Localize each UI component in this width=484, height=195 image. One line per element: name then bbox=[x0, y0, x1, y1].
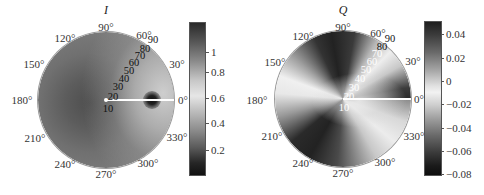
colorbar-tick: −0.02 bbox=[446, 98, 471, 110]
colorbar-tick: −0.08 bbox=[446, 168, 471, 180]
radial-label: 90 bbox=[385, 33, 396, 44]
angle-label: 300° bbox=[375, 156, 396, 168]
angle-label: 30° bbox=[405, 55, 420, 67]
plot-title-q: Q bbox=[339, 3, 348, 18]
angle-label: 270° bbox=[333, 167, 354, 179]
angle-label: 240° bbox=[293, 157, 314, 169]
colorbar-tick: 0.02 bbox=[446, 52, 465, 64]
angle-label: 60° bbox=[370, 27, 385, 39]
angle-label: 150° bbox=[265, 56, 286, 68]
colorbar-tick: −0.04 bbox=[446, 122, 471, 134]
panel-q: Q 90° 120° 60° 150° 30° 180° 0° 210° 330… bbox=[0, 0, 484, 195]
colorbar-tick: −0.06 bbox=[446, 145, 471, 157]
radial-label: 10 bbox=[339, 102, 350, 113]
colorbar-q bbox=[424, 21, 442, 176]
angle-label: 330° bbox=[404, 130, 425, 142]
angle-label: 90° bbox=[335, 21, 350, 33]
angle-label: 210° bbox=[262, 130, 283, 142]
colorbar-tick: 0.04 bbox=[446, 28, 465, 40]
angle-label: 120° bbox=[293, 30, 314, 42]
angle-label: 180° bbox=[247, 94, 268, 106]
angle-label: 0° bbox=[414, 93, 424, 105]
colorbar-tick: 0 bbox=[446, 75, 452, 87]
